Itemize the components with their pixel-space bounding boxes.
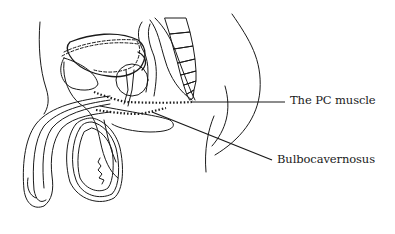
bulbocavernosus-leader (152, 112, 272, 160)
urethra-2 (128, 70, 134, 106)
testicle (67, 118, 123, 201)
pubic-bone (61, 58, 98, 90)
rectum-inner (148, 24, 156, 96)
anatomy-diagram (0, 0, 395, 234)
thigh-curve (205, 116, 214, 172)
buttock-outline (215, 14, 260, 155)
pc-muscle-hatch (94, 92, 192, 103)
body-front-outline (39, 22, 48, 114)
bladder-outline (67, 34, 145, 77)
sacrum-vertebrae (150, 18, 196, 100)
bladder-dashed-wall (64, 40, 140, 72)
pc-muscle-label: The PC muscle (290, 93, 376, 107)
bladder-dashed-wall-2 (62, 43, 138, 56)
vas-deferens (64, 62, 118, 178)
bulbocavernosus-label: Bulbocavernosus (277, 152, 375, 166)
